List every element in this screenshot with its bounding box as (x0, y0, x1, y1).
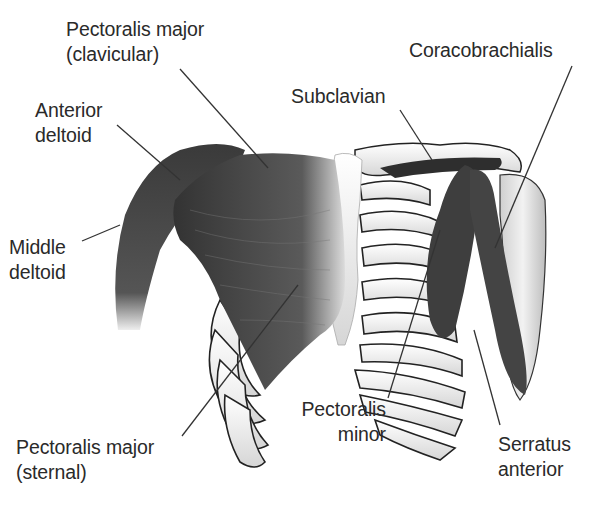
label-line: Middle (9, 235, 66, 260)
label-pectoralis-major-clavicular: Pectoralis major (clavicular) (66, 17, 204, 67)
label-pectoralis-minor: Pectoralis minor (284, 397, 386, 447)
label-line: deltoid (35, 123, 102, 148)
label-line: Pectoralis (284, 397, 386, 422)
label-line: minor (284, 422, 386, 447)
label-anterior-deltoid: Anterior deltoid (35, 98, 102, 148)
label-line: Serratus (498, 432, 571, 457)
label-line: anterior (498, 457, 571, 482)
label-line: (sternal) (16, 460, 154, 485)
label-line: (clavicular) (66, 42, 204, 67)
label-line: Subclavian (291, 84, 385, 109)
label-coracobrachialis: Coracobrachialis (409, 38, 553, 63)
label-middle-deltoid: Middle deltoid (9, 235, 66, 285)
label-line: Anterior (35, 98, 102, 123)
label-line: Pectoralis major (66, 17, 204, 42)
pectoralis-major-left (173, 153, 345, 390)
label-line: Coracobrachialis (409, 38, 553, 63)
label-pectoralis-major-sternal: Pectoralis major (sternal) (16, 435, 154, 485)
label-serratus-anterior: Serratus anterior (498, 432, 571, 482)
label-line: deltoid (9, 260, 66, 285)
label-subclavian: Subclavian (291, 84, 385, 109)
label-line: Pectoralis major (16, 435, 154, 460)
